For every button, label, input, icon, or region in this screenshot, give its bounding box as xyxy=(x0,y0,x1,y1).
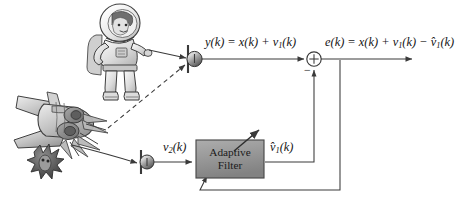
adaptive-filter-label-line1: Adaptive xyxy=(196,146,264,159)
filter-output-label: v̂1(k) xyxy=(270,141,293,154)
path-noise-to-reference-mic xyxy=(72,145,137,163)
adaptive-filter-label-line2: Filter xyxy=(196,159,264,172)
summer-negative-sign: − xyxy=(304,64,311,76)
adaptive-filter-label: Adaptive Filter xyxy=(196,146,264,173)
primary-microphone xyxy=(187,45,202,73)
path-noise-to-primary-mic xyxy=(108,65,185,128)
reference-microphone xyxy=(140,150,154,174)
reference-signal-label: v2(k) xyxy=(163,141,186,154)
error-signal-label: e(k) = x(k) + v1(k) − v̂1(k) xyxy=(325,36,454,49)
diagram-canvas: y(k) = x(k) + v1(k) e(k) = x(k) + v1(k) … xyxy=(0,0,460,206)
primary-signal-label: y(k) = x(k) + v1(k) xyxy=(205,36,296,49)
path-speech-to-primary-mic xyxy=(149,50,186,58)
block-diagram-layer xyxy=(0,0,460,206)
